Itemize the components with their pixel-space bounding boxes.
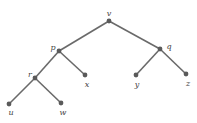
edge-v-q (109, 21, 160, 49)
node-y (134, 73, 139, 78)
edge-q-z (160, 49, 186, 74)
node-x (83, 73, 88, 78)
node-r (33, 76, 38, 81)
node-w (59, 101, 64, 106)
node-label-v: v (107, 9, 112, 18)
node-label-p: p (50, 43, 55, 52)
node-label-z: z (185, 79, 191, 88)
tree-labels: vpqrxyzuw (8, 9, 190, 117)
edge-v-p (59, 21, 109, 51)
node-label-r: r (28, 70, 33, 79)
node-v (107, 19, 112, 24)
edge-r-u (9, 78, 35, 104)
node-label-x: x (85, 80, 90, 89)
node-label-w: w (60, 108, 67, 117)
node-u (7, 102, 12, 107)
edge-p-r (35, 51, 59, 78)
edge-p-x (59, 51, 85, 75)
edge-r-w (35, 78, 61, 103)
node-p (57, 49, 62, 54)
node-label-q: q (166, 42, 171, 51)
node-label-u: u (8, 108, 13, 117)
node-z (184, 72, 189, 77)
tree-edges (9, 21, 186, 104)
node-q (158, 47, 163, 52)
edge-q-y (136, 49, 160, 75)
tree-nodes (7, 19, 189, 107)
node-label-y: y (134, 80, 140, 89)
tree-diagram: vpqrxyzuw (0, 0, 197, 123)
